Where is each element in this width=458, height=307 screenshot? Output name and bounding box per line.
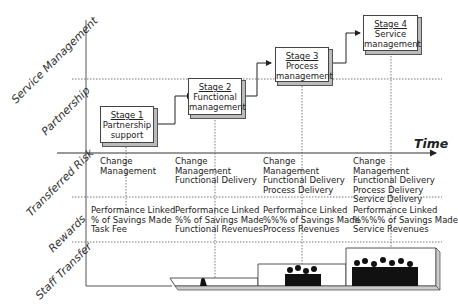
risk-line: Management [100, 167, 156, 177]
risk-col-3: Change Management Functional Delivery Pr… [263, 157, 345, 195]
rewards-col-2: Performance Linked %% of Savings Made Fu… [175, 206, 264, 235]
stage-title: Stage 1 [101, 110, 153, 120]
reward-line: Service Revenues [353, 225, 458, 235]
stage-line: Service [364, 29, 417, 39]
risk-col-1: Change Management [100, 157, 156, 176]
stage-line: management [189, 102, 241, 112]
stage-4-box: Stage 4 Service management [363, 15, 418, 51]
reward-line: Task Fee [91, 225, 175, 235]
risk-line: Functional Delivery [175, 176, 257, 186]
stage-title: Stage 4 [364, 19, 417, 29]
risk-col-4: Change Management Functional Delivery Pr… [353, 157, 435, 205]
stage-2-box: Stage 2 Functional management [188, 78, 242, 115]
stage-line: support [101, 130, 153, 140]
stage-title: Stage 2 [189, 82, 241, 92]
stage-title: Stage 3 [276, 51, 328, 61]
rewards-col-3: Performance Linked %%% of Savings Made P… [263, 206, 360, 235]
stage-line: Partnership [101, 120, 153, 130]
rewards-col-4: Performance Linked %%%% of Savings Made … [353, 206, 458, 235]
stage-line: Process [276, 61, 328, 71]
stage-line: management [364, 39, 417, 49]
time-axis-label: Time [414, 136, 448, 151]
risk-col-2: Change Management Functional Delivery [175, 157, 257, 186]
risk-line: Service Delivery [353, 195, 435, 205]
risk-line: Process Delivery [263, 186, 345, 196]
reward-line: Process Revenues [263, 225, 360, 235]
stage-line: management [276, 71, 328, 81]
stage-1-box: Stage 1 Partnership support [100, 106, 154, 143]
reward-line: Functional Revenues [175, 225, 264, 235]
stage-3-box: Stage 3 Process management [275, 47, 329, 82]
stage-line: Functional [189, 92, 241, 102]
rewards-col-1: Performance Linked % of Savings Made Tas… [91, 206, 175, 235]
